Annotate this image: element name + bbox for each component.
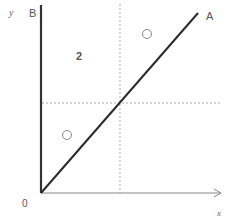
circle-marker-lower [63, 131, 72, 140]
circle-marker-upper [143, 30, 152, 39]
diagram-svg: y B A 2 0 x [0, 0, 233, 221]
y-axis-label: y [8, 7, 14, 18]
x-axis-label: x [216, 208, 221, 218]
line-b-label: B [29, 7, 36, 19]
region-2-label: 2 [76, 50, 82, 62]
line-a-label: A [206, 10, 214, 22]
origin-label: 0 [22, 198, 28, 209]
diagram-canvas: y B A 2 0 x [0, 0, 233, 221]
